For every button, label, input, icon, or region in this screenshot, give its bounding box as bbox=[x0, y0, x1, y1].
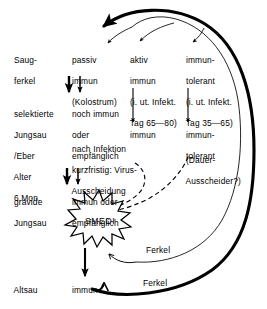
smedi-label: SMEDI bbox=[85, 216, 115, 226]
node-line: immun bbox=[72, 285, 98, 295]
stage-line: Jungsau bbox=[14, 218, 47, 228]
node-line: immun bbox=[130, 130, 156, 140]
node-line: passiv bbox=[72, 55, 97, 65]
node-jungsau-immun: immun bbox=[120, 119, 156, 151]
node-line: immun bbox=[72, 76, 98, 86]
stage-label-altsau: Altsau bbox=[4, 274, 38, 306]
stage-line: Altsau bbox=[13, 285, 37, 295]
node-line: immun- bbox=[186, 130, 215, 140]
stage-line: ferkel bbox=[14, 76, 35, 86]
note-dauer-ausscheider: (Dauer- Ausscheider?) bbox=[176, 144, 241, 197]
node-line: noch immun bbox=[72, 109, 119, 119]
node-line: aktiv bbox=[130, 55, 148, 65]
stage-line: Jungsau bbox=[14, 130, 47, 140]
stage-line: selektierte bbox=[14, 109, 54, 119]
ferkel-label-upper: Ferkel bbox=[146, 245, 170, 256]
note-line: nach Infektion bbox=[72, 144, 126, 154]
stage-line: gravide bbox=[14, 197, 43, 207]
note-line: kurzfristig: Virus- bbox=[72, 165, 137, 175]
node-line: (i. ut. Infekt. bbox=[186, 97, 232, 107]
stage-line: Alter bbox=[13, 172, 31, 182]
stage-label-saugferkel: Saug- ferkel bbox=[4, 44, 37, 97]
node-line: (i. ut. Infekt. bbox=[130, 97, 176, 107]
node-line: tolerant bbox=[186, 76, 215, 86]
stage-line: /Eber bbox=[14, 151, 35, 161]
stage-label-gravide: gravide Jungsau bbox=[4, 186, 47, 239]
note-line: (Dauer- bbox=[186, 155, 215, 165]
node-line: immun- bbox=[186, 55, 215, 65]
ferkel-label-lower: Ferkel bbox=[143, 278, 167, 289]
node-line: immun oder bbox=[72, 197, 118, 207]
node-gravide-immun-oder-empfaenglich: immun oder empfänglich bbox=[62, 186, 119, 239]
ferkel-upper-arc bbox=[109, 254, 136, 263]
note-line: Ausscheider?) bbox=[185, 176, 240, 186]
node-altsau-immun: immun bbox=[62, 274, 98, 306]
node-line: immun bbox=[130, 76, 156, 86]
stage-line: Saug- bbox=[14, 55, 37, 65]
smedi-cycle-diagram: Saug- ferkel selektierte Jungsau /Eber A… bbox=[0, 0, 267, 309]
